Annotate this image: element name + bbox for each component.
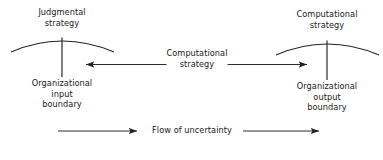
right-strategy-label: Computational strategy xyxy=(297,9,358,30)
center-strategy-label: Computational strategy xyxy=(167,48,228,69)
center-strategy-label-line1: Computational xyxy=(167,48,228,59)
center-strategy-label-line2: strategy xyxy=(167,59,228,70)
left-boundary-label-line2: input xyxy=(32,89,92,100)
left-boundary-label-line1: Organizational xyxy=(32,78,92,89)
right-boundary-label-line2: output xyxy=(297,92,357,103)
diagram-canvas: Judgmental strategy Computational strate… xyxy=(0,0,383,160)
left-strategy-label-line2: strategy xyxy=(38,18,85,29)
left-strategy-label: Judgmental strategy xyxy=(38,7,85,28)
left-strategy-label-line1: Judgmental xyxy=(38,7,85,18)
left-boundary-label: Organizational input boundary xyxy=(32,78,92,110)
right-boundary-label-line1: Organizational xyxy=(297,81,357,92)
right-boundary-label-line3: boundary xyxy=(297,102,357,113)
right-strategy-label-line2: strategy xyxy=(297,20,358,31)
left-boundary-label-line3: boundary xyxy=(32,99,92,110)
flow-of-uncertainty-label: Flow of uncertainty xyxy=(152,125,232,136)
right-strategy-label-line1: Computational xyxy=(297,9,358,20)
flow-of-uncertainty-label-line1: Flow of uncertainty xyxy=(152,125,232,136)
right-boundary-label: Organizational output boundary xyxy=(297,81,357,113)
